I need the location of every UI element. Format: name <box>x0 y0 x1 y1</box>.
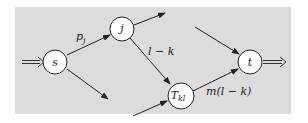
edge-label-pj: pj <box>76 30 86 45</box>
edge-in-t <box>195 27 239 54</box>
edge-s-j <box>67 35 110 55</box>
sink-double-arrow <box>263 57 286 67</box>
edge-j-out <box>134 13 165 25</box>
source-double-arrow <box>22 57 44 67</box>
edge-label-m-l-minus-k: m(l − k) <box>206 85 251 98</box>
edge-in-T <box>133 101 167 116</box>
node-t: t <box>238 50 262 74</box>
node-j: j <box>110 17 134 41</box>
edge-label-l-minus-k: l − k <box>148 45 175 58</box>
flow-network-diagram: s j Tkl t pj l − k m(l − k) <box>0 0 308 123</box>
node-s: s <box>43 50 67 74</box>
node-T: Tkl <box>168 83 194 109</box>
node-s-label: s <box>52 56 58 69</box>
node-t-label: t <box>248 56 253 69</box>
edge-s-out <box>67 69 108 99</box>
